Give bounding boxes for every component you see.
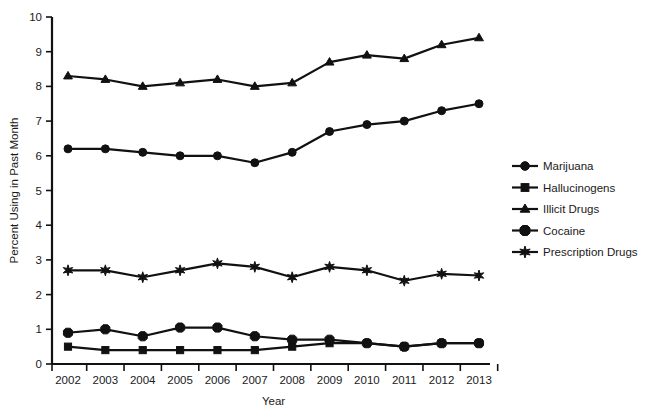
x-tick-label: 2011 xyxy=(392,374,417,386)
data-point-circle-icon xyxy=(139,148,147,156)
data-point-circle-icon xyxy=(213,152,221,160)
legend-item-illicit-drugs[interactable]: Illicit Drugs xyxy=(512,203,599,215)
data-point-square-icon xyxy=(177,347,184,354)
series-line xyxy=(68,104,479,163)
data-point-x-icon xyxy=(63,328,72,337)
legend-label: Illicit Drugs xyxy=(543,203,599,215)
data-point-x-icon xyxy=(325,335,334,344)
data-point-triangle-icon xyxy=(475,33,484,40)
x-tick-label: 2002 xyxy=(55,374,81,386)
y-tick-label: 4 xyxy=(36,219,43,231)
data-point-circle-icon xyxy=(326,128,334,136)
series-line xyxy=(68,38,479,87)
y-tick-label: 10 xyxy=(29,11,42,23)
data-point-x-icon xyxy=(288,335,297,344)
data-point-x-icon xyxy=(101,325,110,334)
x-axis-title: Year xyxy=(262,395,285,407)
x-tick-label: 2005 xyxy=(167,374,193,386)
y-tick-label: 8 xyxy=(36,80,42,92)
data-point-x-icon xyxy=(176,323,185,332)
data-point-x-icon xyxy=(437,339,446,348)
data-point-square-icon xyxy=(251,347,258,354)
legend-item-prescription-drugs[interactable]: Prescription Drugs xyxy=(512,246,638,258)
line-chart: 012345678910 200220032004200520062007200… xyxy=(0,0,651,408)
series-line xyxy=(68,263,479,280)
y-tick-label: 3 xyxy=(36,254,42,266)
y-tick-label: 1 xyxy=(36,323,42,335)
data-point-x-icon xyxy=(250,332,259,341)
data-point-square-icon xyxy=(102,347,109,354)
series-hallucinogens xyxy=(64,340,482,354)
series-illicit-drugs xyxy=(64,33,484,89)
series-prescription-drugs xyxy=(63,258,483,286)
y-tick-label: 5 xyxy=(36,185,42,197)
legend-label: Cocaine xyxy=(543,225,585,237)
data-point-circle-icon xyxy=(251,159,259,167)
data-point-circle-icon xyxy=(363,121,371,129)
data-point-x-icon xyxy=(362,339,371,348)
data-point-square-icon xyxy=(214,347,221,354)
data-point-circle-icon xyxy=(176,152,184,160)
chart-legend: MarijuanaHallucinogensIllicit DrugsCocai… xyxy=(512,160,638,258)
data-point-square-icon xyxy=(139,347,146,354)
series-cocaine xyxy=(63,323,483,351)
x-tick-label: 2009 xyxy=(317,374,343,386)
y-axis-ticks: 012345678910 xyxy=(29,11,52,370)
data-point-x-icon xyxy=(474,339,483,348)
series-line xyxy=(68,343,479,350)
data-point-circle-icon xyxy=(438,107,446,115)
x-tick-label: 2010 xyxy=(354,374,380,386)
chart-series xyxy=(63,33,483,353)
legend-marker-circle-icon xyxy=(521,162,530,171)
data-point-circle-icon xyxy=(101,145,109,153)
legend-label: Hallucinogens xyxy=(543,182,615,194)
legend-label: Marijuana xyxy=(543,160,594,172)
chart-page: 012345678910 200220032004200520062007200… xyxy=(0,0,651,408)
y-axis-title: Percent Using in Past Month xyxy=(8,118,20,264)
data-point-square-icon xyxy=(64,343,71,350)
data-point-circle-icon xyxy=(64,145,72,153)
legend-label: Prescription Drugs xyxy=(543,246,638,258)
x-tick-label: 2013 xyxy=(466,374,492,386)
x-tick-label: 2012 xyxy=(429,374,455,386)
y-tick-label: 6 xyxy=(36,150,42,162)
x-tick-label: 2006 xyxy=(205,374,231,386)
legend-item-cocaine[interactable]: Cocaine xyxy=(512,225,585,237)
legend-item-marijuana[interactable]: Marijuana xyxy=(512,160,594,172)
x-tick-label: 2003 xyxy=(93,374,119,386)
legend-marker-x-icon xyxy=(520,226,530,236)
series-marijuana xyxy=(64,100,483,167)
x-tick-label: 2004 xyxy=(130,374,156,386)
data-point-circle-icon xyxy=(475,100,483,108)
chart-axes xyxy=(52,17,490,364)
data-point-x-icon xyxy=(400,342,409,351)
y-tick-label: 7 xyxy=(36,115,42,127)
x-tick-label: 2007 xyxy=(242,374,268,386)
x-axis-ticks: 2002200320042005200620072008200920102011… xyxy=(52,364,498,386)
series-line xyxy=(68,328,479,347)
legend-item-hallucinogens[interactable]: Hallucinogens xyxy=(512,182,615,194)
data-point-x-icon xyxy=(213,323,222,332)
data-point-circle-icon xyxy=(400,117,408,125)
y-tick-label: 2 xyxy=(36,289,42,301)
x-tick-label: 2008 xyxy=(279,374,305,386)
data-point-circle-icon xyxy=(288,148,296,156)
y-tick-label: 9 xyxy=(36,46,42,58)
legend-marker-square-icon xyxy=(521,184,529,192)
y-tick-label: 0 xyxy=(36,358,42,370)
data-point-x-icon xyxy=(138,332,147,341)
